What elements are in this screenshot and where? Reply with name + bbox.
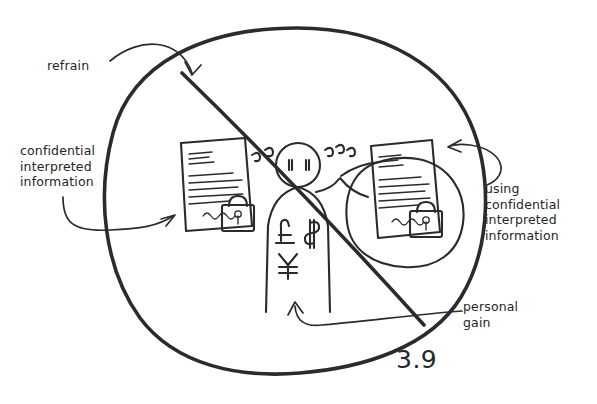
confidential-document-right [371,140,440,238]
personal-gain-leader-arrow [288,302,462,325]
label-personal-gain: personal gain [463,299,518,330]
right-note-leader-arrow [448,140,501,185]
label-refrain: refrain [47,58,89,74]
left-note-leader-arrow [63,197,175,230]
person-figure [266,143,339,312]
figure-number: 3.9 [396,345,437,374]
prohibition-slash [182,73,424,325]
label-using-confidential-interpreted-information: using confidential interpreted informati… [485,181,560,243]
label-confidential-interpreted-information: confidential interpreted information [20,143,95,190]
figure-container: refrain confidential interpreted informa… [0,0,597,404]
confidential-document-left [181,138,252,231]
dollar-symbol-icon [305,220,319,248]
motion-marks-right [325,145,355,156]
speech-bubble [340,158,464,267]
yen-symbol-icon [279,254,297,279]
currency-symbols [276,220,319,279]
pound-symbol-icon [276,220,294,243]
prohibition-circle [104,28,485,374]
